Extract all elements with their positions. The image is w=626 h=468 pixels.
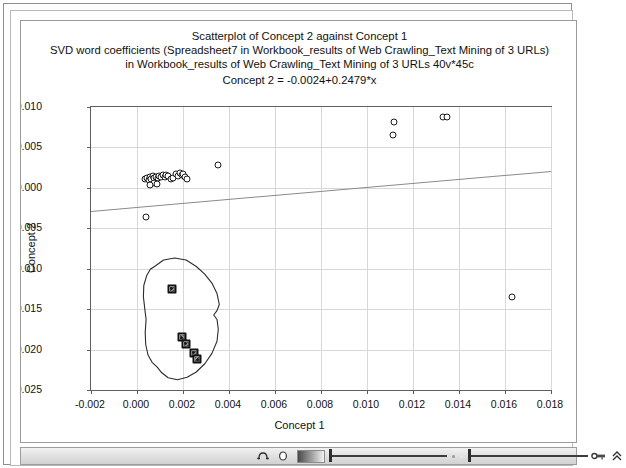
x-gridline (321, 107, 322, 390)
y-tick (87, 269, 91, 270)
key-icon[interactable] (591, 449, 605, 463)
x-tick (91, 390, 92, 394)
y-tick (87, 228, 91, 229)
contrast-slider[interactable] (468, 450, 588, 462)
x-tick (137, 390, 138, 394)
y-tick-label: -0.015 (20, 302, 42, 314)
window-inner-frame: Scatterplot of Concept 2 against Concept… (10, 10, 573, 466)
y-tick (87, 188, 91, 189)
x-tick-label: 0.006 (261, 398, 287, 410)
x-tick-label: 0.004 (215, 398, 241, 410)
x-gridline (367, 107, 368, 390)
y-tick-label: -0.005 (20, 221, 42, 233)
plot-wrapper: Concept 2 Concept 1 -0.0020.0000.0020.00… (21, 21, 577, 443)
x-tick (321, 390, 322, 394)
y-tick-label: 0.010 (20, 100, 42, 112)
y-tick (87, 390, 91, 391)
x-tick (459, 390, 460, 394)
y-gridline (91, 269, 551, 270)
data-point[interactable] (147, 181, 154, 188)
y-gridline (91, 228, 551, 229)
window-outer-frame: Scatterplot of Concept 2 against Concept… (3, 3, 572, 465)
x-tick-label: 0.002 (169, 398, 195, 410)
data-point[interactable] (389, 132, 396, 139)
slider-dots (452, 455, 463, 458)
y-gridline (91, 350, 551, 351)
magnifier-icon[interactable] (256, 449, 270, 463)
x-tick-label: 0.008 (307, 398, 333, 410)
toolbar-right-group (588, 449, 626, 463)
x-tick (229, 390, 230, 394)
toolbar-left-spacer (21, 448, 253, 464)
data-point[interactable] (153, 181, 160, 188)
x-gridline (505, 107, 506, 390)
x-axis-title: Concept 1 (21, 419, 577, 431)
x-tick-label: -0.002 (75, 398, 105, 410)
x-tick (367, 390, 368, 394)
y-tick (87, 309, 91, 310)
y-tick-label: -0.025 (20, 383, 42, 395)
circle-icon[interactable] (276, 449, 290, 463)
data-point[interactable] (509, 294, 516, 301)
scroll-up-icon[interactable] (611, 449, 625, 463)
data-point[interactable] (193, 355, 202, 364)
x-tick (275, 390, 276, 394)
x-tick (413, 390, 414, 394)
data-point[interactable] (391, 118, 398, 125)
chart-toolbar[interactable] (20, 447, 577, 465)
brightness-slider[interactable] (329, 450, 447, 462)
y-gridline (91, 188, 551, 189)
x-gridline (275, 107, 276, 390)
data-point[interactable] (181, 339, 190, 348)
plot-area[interactable] (90, 106, 552, 391)
data-point[interactable] (143, 213, 150, 220)
y-tick-label: 0.000 (20, 181, 42, 193)
y-tick (87, 107, 91, 108)
y-gridline (91, 309, 551, 310)
x-tick-label: 0.018 (537, 398, 563, 410)
data-point[interactable] (167, 284, 176, 293)
gradient-swatch[interactable] (297, 450, 325, 463)
x-gridline (137, 107, 138, 390)
y-tick (87, 350, 91, 351)
y-tick-label: -0.010 (20, 262, 42, 274)
y-gridline (91, 147, 551, 148)
x-gridline (459, 107, 460, 390)
data-point[interactable] (214, 162, 221, 169)
y-tick-label: -0.020 (20, 343, 42, 355)
y-tick-label: 0.005 (20, 140, 42, 152)
x-gridline (551, 107, 552, 390)
x-gridline (413, 107, 414, 390)
x-tick-label: 0.012 (399, 398, 425, 410)
x-tick-label: 0.016 (491, 398, 517, 410)
x-tick-label: 0.000 (123, 398, 149, 410)
data-point[interactable] (444, 113, 451, 120)
x-tick (551, 390, 552, 394)
x-tick (183, 390, 184, 394)
chart-frame: Scatterplot of Concept 2 against Concept… (20, 20, 577, 443)
x-tick-label: 0.014 (445, 398, 471, 410)
data-point[interactable] (184, 176, 191, 183)
y-tick (87, 147, 91, 148)
x-gridline (229, 107, 230, 390)
x-tick-label: 0.010 (353, 398, 379, 410)
x-tick (505, 390, 506, 394)
